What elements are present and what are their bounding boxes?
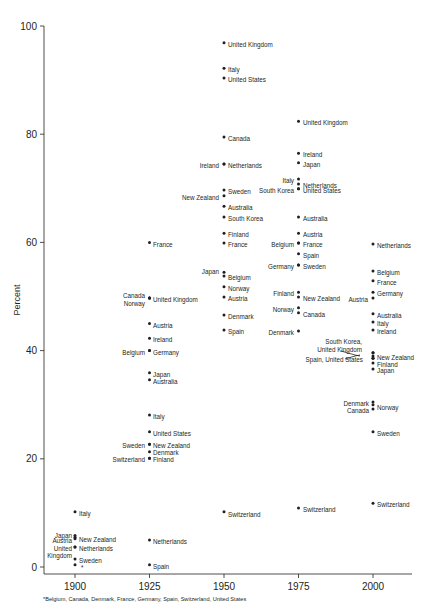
data-point: [297, 252, 300, 255]
point-label: Spain: [228, 328, 245, 336]
point-label: Italy: [282, 177, 294, 185]
data-point: [372, 400, 375, 403]
data-point: [372, 243, 375, 246]
data-point: [148, 297, 151, 300]
data-point: [372, 403, 375, 406]
x-tick-label: 1975: [287, 581, 310, 592]
data-point: [223, 510, 226, 513]
data-point: [223, 215, 226, 218]
point-label: New Zealand: [79, 536, 117, 543]
point-label: Norway: [377, 404, 399, 412]
y-tick-label: 20: [26, 453, 38, 464]
data-point: [148, 563, 151, 566]
data-point: [74, 510, 77, 513]
data-point: [372, 270, 375, 273]
point-label: United Kingdom: [317, 346, 362, 354]
point-label: Denmark: [343, 400, 369, 407]
data-point: [297, 215, 300, 218]
data-point: [297, 187, 300, 190]
chart-canvas: 02040608010019001925195019752000 United …: [0, 0, 427, 616]
y-tick-label: 80: [26, 129, 38, 140]
point-label: Canada: [123, 292, 146, 299]
point-label: Sweden: [303, 263, 326, 270]
point-label: Norway: [273, 306, 295, 314]
data-point: [148, 349, 151, 352]
point-label: Italy: [377, 320, 389, 328]
data-point: [297, 311, 300, 314]
point-label: Netherlands: [79, 545, 113, 552]
point-label: Japan: [303, 161, 321, 169]
point-label: Denmark: [268, 329, 294, 336]
data-point: [223, 135, 226, 138]
data-point: [372, 329, 375, 332]
point-label: United Kingdom: [303, 119, 348, 127]
y-tick-label: 40: [26, 345, 38, 356]
point-label: United: [54, 545, 73, 552]
point-label: Belgium: [122, 349, 145, 357]
data-point: [297, 161, 300, 164]
data-point: [372, 291, 375, 294]
point-label: Ireland: [153, 336, 173, 343]
data-point: [223, 41, 226, 44]
point-label: Switzerland: [377, 501, 410, 508]
point-label: Germany: [377, 290, 404, 298]
data-point: [297, 330, 300, 333]
data-point: [372, 408, 375, 411]
point-label: Netherlands: [228, 162, 262, 169]
data-point: [297, 291, 300, 294]
data-point: [223, 232, 226, 235]
data-point: [297, 120, 300, 123]
point-label: Sweden: [79, 557, 102, 564]
data-point: [148, 322, 151, 325]
data-point: [223, 241, 226, 244]
data-point: [372, 320, 375, 323]
point-label: Austria: [303, 231, 323, 238]
y-axis-label: Percent: [12, 284, 22, 316]
point-label: Switzerland: [228, 511, 261, 518]
data-point: [372, 312, 375, 315]
data-point: [297, 296, 300, 299]
x-tick-label: 1900: [64, 581, 87, 592]
point-label: Canada: [303, 311, 326, 318]
data-point: [297, 178, 300, 181]
scatter-chart: 02040608010019001925195019752000 United …: [0, 0, 427, 616]
point-label: Switzerland: [112, 456, 145, 463]
data-point: [148, 371, 151, 374]
data-point: [297, 507, 300, 510]
point-label: New Zealand: [303, 295, 341, 302]
point-label: Finland: [273, 290, 294, 297]
point-label: United Kingdom: [228, 41, 273, 49]
y-tick-label: 60: [26, 237, 38, 248]
point-label: Ireland: [303, 151, 323, 158]
point-label: Denmark: [228, 313, 254, 320]
data-point: [223, 313, 226, 316]
data-point: [372, 351, 375, 354]
point-label: Belgium: [228, 274, 251, 282]
point-label: Japan: [202, 268, 220, 276]
point-label: Australia: [377, 312, 402, 319]
data-point: [148, 430, 151, 433]
data-point: [297, 232, 300, 235]
data-point: [148, 457, 151, 460]
point-label: United Kingdom: [153, 296, 198, 304]
data-point: [372, 362, 375, 365]
y-tick-label: 0: [31, 562, 37, 573]
data-point: [223, 205, 226, 208]
data-point: [74, 557, 77, 560]
point-label: United States: [303, 187, 341, 194]
point-label: Australia: [303, 215, 328, 222]
point-label: Switzerland: [303, 506, 336, 513]
data-point: [223, 188, 226, 191]
point-label: Spain, United States: [306, 356, 363, 364]
point-label: South Korea: [228, 215, 264, 222]
footnote: *Belgium, Canada, Denmark, France, Germa…: [43, 596, 246, 602]
data-point: [223, 329, 226, 332]
data-point: [372, 430, 375, 433]
point-label: Austria: [348, 296, 368, 303]
point-label: United States: [228, 76, 266, 83]
y-tick-label: 100: [20, 21, 37, 32]
data-point: [223, 67, 226, 70]
point-label: Australia: [228, 204, 253, 211]
point-label: Ireland: [200, 162, 220, 169]
point-labels: United KingdomItalyUnited StatesCanadaNe…: [47, 41, 414, 571]
